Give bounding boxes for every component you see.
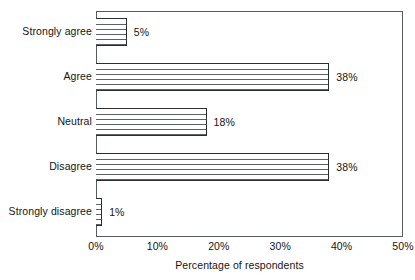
bar[interactable]: [96, 153, 329, 181]
category-label: Agree: [0, 70, 92, 82]
bar[interactable]: [96, 63, 329, 91]
category-label: Neutral: [0, 115, 92, 127]
bar-chart: Strongly agree5%Agree38%Neutral18%Disagr…: [0, 0, 415, 280]
bar-value-label: 5%: [134, 26, 149, 38]
x-axis-title: Percentage of respondents: [0, 259, 415, 271]
bar-value-label: 1%: [109, 206, 124, 218]
x-tick-label: 30%: [270, 240, 291, 252]
x-tick-label: 50%: [392, 240, 413, 252]
bar[interactable]: [96, 108, 207, 136]
x-tick-label: 10%: [147, 240, 168, 252]
bar-row: 18%: [96, 108, 403, 136]
bar-value-label: 38%: [336, 161, 357, 173]
x-tick-label: 20%: [208, 240, 229, 252]
category-label: Disagree: [0, 160, 92, 172]
bar-row: 1%: [96, 198, 403, 226]
x-tick-label: 40%: [331, 240, 352, 252]
bar-value-label: 18%: [214, 116, 235, 128]
bar[interactable]: [96, 198, 102, 226]
bar-row: 38%: [96, 153, 403, 181]
x-axis-title-text: Percentage of respondents: [175, 259, 304, 271]
bar-value-label: 38%: [336, 71, 357, 83]
bar-row: 5%: [96, 18, 403, 46]
bar[interactable]: [96, 18, 127, 46]
bar-row: 38%: [96, 63, 403, 91]
category-label: Strongly disagree: [0, 205, 92, 217]
x-tick-label: 0%: [88, 240, 103, 252]
category-label: Strongly agree: [0, 25, 92, 37]
